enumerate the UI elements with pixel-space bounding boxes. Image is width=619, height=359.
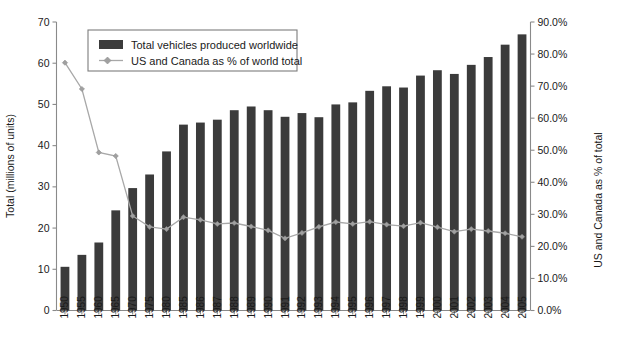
right-tick-label: 20.0% [538,240,568,252]
bar [348,102,357,310]
x-tick-label: 1992 [296,296,307,319]
left-tick-label: 20 [38,222,50,234]
x-tick-label: 1975 [144,296,155,319]
bar [399,88,408,311]
vehicle-production-chart: 010203040506070 0.0%10.0%20.0%30.0%40.0%… [0,0,619,359]
left-tick-label: 60 [38,57,50,69]
x-tick-label: 2002 [466,296,477,319]
bar [230,110,239,310]
left-axis-title: Total (millions of units) [4,114,16,218]
x-tick-label: 1955 [76,296,87,319]
bar [331,104,340,310]
left-tick-label: 50 [38,98,50,110]
right-tick-label: 90.0% [538,16,568,28]
right-tick-label: 70.0% [538,80,568,92]
bar [196,123,205,311]
bar [433,70,442,310]
bar [416,76,425,311]
x-tick-label: 1990 [263,296,274,319]
right-tick-label: 10.0% [538,272,568,284]
x-tick-label: 1996 [364,296,375,319]
left-tick-label: 70 [38,16,50,28]
x-tick-label: 1991 [280,296,291,319]
bar [264,110,273,310]
bar [247,106,256,310]
x-tick-label: 1993 [313,296,324,319]
chart-legend: Total vehicles produced worldwide US and… [88,30,302,71]
x-tick-label: 1997 [381,296,392,319]
right-axis-title: US and Canada as % of total [592,132,604,267]
x-tick-label: 1965 [110,296,121,319]
x-tick-label: 1987 [212,296,223,319]
x-tick-label: 1980 [161,296,172,319]
right-tick-label: 30.0% [538,208,568,220]
chart-container: 010203040506070 0.0%10.0%20.0%30.0%40.0%… [0,0,619,359]
x-tick-label: 1970 [127,296,138,319]
x-tick-label: 2003 [483,296,494,319]
x-tick-label: 1994 [330,296,341,319]
bar [365,91,374,311]
left-tick-label: 30 [38,180,50,192]
x-tick-label: 1999 [415,296,426,319]
bar [145,174,154,310]
right-tick-label: 40.0% [538,176,568,188]
left-tick-label: 40 [38,139,50,151]
x-tick-label: 1960 [93,296,104,319]
right-tick-label: 0.0% [538,304,562,316]
bar [314,117,323,310]
x-tick-label: 1995 [347,296,358,319]
bar [298,113,307,310]
bar [450,74,459,311]
x-tick-label: 1986 [195,296,206,319]
bar [281,117,290,311]
bar [484,57,493,310]
right-tick-label: 60.0% [538,112,568,124]
legend-label-bars: Total vehicles produced worldwide [131,39,298,51]
bar [213,120,222,311]
bar [518,34,527,310]
x-tick-label: 1950 [59,296,70,319]
x-tick-label: 2005 [517,296,528,319]
x-tick-label: 2000 [432,296,443,319]
bar [501,45,510,311]
left-tick-label: 0 [44,304,50,316]
legend-label-percent: US and Canada as % of world total [131,55,302,67]
right-tick-label: 50.0% [538,144,568,156]
bar [111,210,120,310]
x-tick-label: 1988 [229,296,240,319]
x-tick-label: 1998 [398,296,409,319]
legend-swatch-bars [99,40,123,49]
right-tick-label: 80.0% [538,48,568,60]
x-tick-label: 2004 [500,296,511,319]
x-tick-label: 1989 [246,296,257,319]
bar [467,65,476,311]
bar [382,86,391,310]
x-tick-label: 1985 [178,296,189,319]
x-tick-label: 2001 [449,296,460,319]
left-tick-label: 10 [38,263,50,275]
